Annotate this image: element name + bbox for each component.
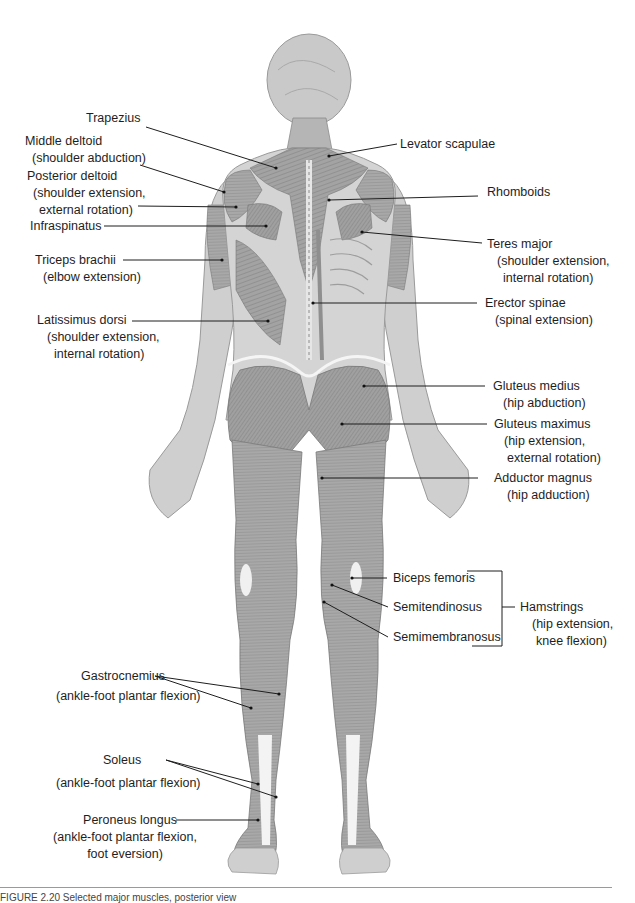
peroneus-longus-name: Peroneus longus [50, 812, 200, 829]
semimembranosus-name: Semimembranosus [393, 630, 501, 644]
caption-divider [0, 887, 612, 888]
gluteus-medius-name: Gluteus medius [493, 378, 586, 395]
latissimus-dorsi-action-2: internal rotation) [37, 346, 160, 363]
label-peroneus-longus: Peroneus longus (ankle-foot plantar flex… [50, 812, 200, 863]
label-semimembranosus: Semimembranosus [393, 629, 501, 646]
label-soleus: Soleus [103, 752, 141, 769]
erector-spinae-action: (spinal extension) [485, 312, 593, 329]
label-erector-spinae: Erector spinae (spinal extension) [485, 295, 593, 329]
rhomboids-name: Rhomboids [487, 185, 550, 199]
label-gastrocnemius-action: (ankle-foot plantar flexion) [56, 688, 201, 705]
label-trapezius: Trapezius [86, 110, 140, 127]
posterior-deltoid-action-1: (shoulder extension, [27, 185, 146, 202]
gastrocnemius-action: (ankle-foot plantar flexion) [56, 689, 201, 703]
label-latissimus-dorsi: Latissimus dorsi (shoulder extension, in… [37, 312, 160, 363]
teres-major-name: Teres major [487, 236, 610, 253]
triceps-brachii-action: (elbow extension) [35, 269, 141, 286]
middle-deltoid-name: Middle deltoid [25, 133, 146, 150]
peroneus-longus-action-1: (ankle-foot plantar flexion, [50, 829, 200, 846]
adductor-magnus-action: (hip adduction) [494, 487, 592, 504]
label-teres-major: Teres major (shoulder extension, interna… [487, 236, 610, 287]
gluteus-maximus-action-1: (hip extension, [494, 433, 601, 450]
peroneus-longus-action-2: foot eversion) [50, 846, 200, 863]
teres-major-action-1: (shoulder extension, [487, 253, 610, 270]
neck [287, 118, 332, 150]
erector-spinae-name: Erector spinae [485, 295, 593, 312]
gluteus-medius-action: (hip abduction) [493, 395, 586, 412]
label-infraspinatus: Infraspinatus [30, 218, 102, 235]
label-levator-scapulae: Levator scapulae [400, 136, 495, 153]
label-soleus-action: (ankle-foot plantar flexion) [56, 775, 201, 792]
triceps-brachii-name: Triceps brachii [35, 252, 141, 269]
label-adductor-magnus: Adductor magnus (hip adduction) [494, 470, 592, 504]
soleus-name: Soleus [103, 753, 141, 767]
gluteus-maximus-action-2: external rotation) [494, 450, 601, 467]
posterior-deltoid-name: Posterior deltoid [27, 168, 146, 185]
adductor-magnus-name: Adductor magnus [494, 470, 592, 487]
middle-deltoid-action: (shoulder abduction) [25, 150, 146, 167]
hamstrings-name: Hamstrings [520, 599, 613, 616]
hamstrings-action-2: knee flexion) [520, 633, 613, 650]
trapezius-name: Trapezius [86, 111, 140, 125]
semitendinosus-name: Semitendinosus [393, 600, 482, 614]
label-semitendinosus: Semitendinosus [393, 599, 482, 616]
hamstrings-action-1: (hip extension, [520, 616, 613, 633]
label-gluteus-medius: Gluteus medius (hip abduction) [493, 378, 586, 412]
label-gluteus-maximus: Gluteus maximus (hip extension, external… [494, 416, 601, 467]
label-triceps-brachii: Triceps brachii (elbow extension) [35, 252, 141, 286]
gastrocnemius-name: Gastrocnemius [58, 668, 188, 685]
soleus-action: (ankle-foot plantar flexion) [56, 776, 201, 790]
posterior-deltoid-action-2: external rotation) [27, 202, 146, 219]
latissimus-dorsi-action-1: (shoulder extension, [37, 329, 160, 346]
infraspinatus-name: Infraspinatus [30, 219, 102, 233]
label-biceps-femoris: Biceps femoris [393, 570, 475, 587]
teres-major-action-2: internal rotation) [487, 270, 610, 287]
head [267, 34, 351, 126]
levator-scapulae-name: Levator scapulae [400, 137, 495, 151]
label-middle-deltoid: Middle deltoid (shoulder abduction) [25, 133, 146, 167]
gluteus-maximus-name: Gluteus maximus [494, 416, 601, 433]
label-rhomboids: Rhomboids [487, 184, 550, 201]
biceps-femoris-name: Biceps femoris [393, 571, 475, 585]
label-gastrocnemius: Gastrocnemius [58, 668, 188, 685]
label-posterior-deltoid: Posterior deltoid (shoulder extension, e… [27, 168, 146, 219]
latissimus-dorsi-name: Latissimus dorsi [37, 312, 160, 329]
label-hamstrings: Hamstrings (hip extension, knee flexion) [520, 599, 613, 650]
figure-caption: FIGURE 2.20 Selected major muscles, post… [0, 892, 236, 903]
